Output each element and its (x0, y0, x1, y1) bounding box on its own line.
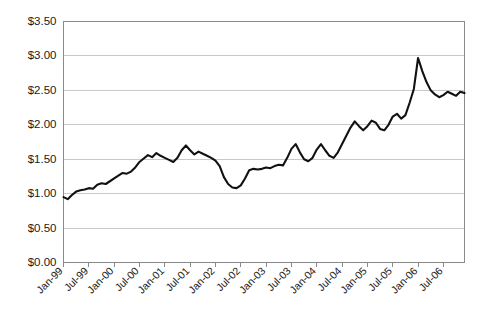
chart-background (0, 0, 480, 310)
y-axis-tick-label: $0.00 (28, 256, 57, 268)
y-axis-tick-label: $2.00 (28, 118, 57, 130)
y-axis-tick-label: $1.50 (28, 153, 57, 165)
y-axis-tick-label: $1.00 (28, 187, 57, 199)
line-chart: $0.00$0.50$1.00$1.50$2.00$2.50$3.00$3.50… (0, 0, 480, 310)
y-axis-tick-label: $2.50 (28, 84, 57, 96)
y-axis-tick-label: $0.50 (28, 222, 57, 234)
y-axis-tick-label: $3.00 (28, 49, 57, 61)
chart-container: $0.00$0.50$1.00$1.50$2.00$2.50$3.00$3.50… (0, 0, 480, 310)
y-axis-tick-label: $3.50 (28, 15, 57, 27)
